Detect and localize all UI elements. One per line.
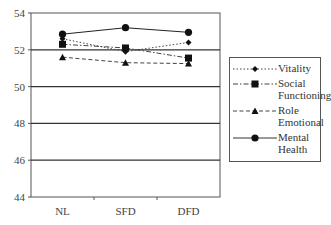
legend: Vitality Social Functioning Role Emotion…: [229, 57, 321, 162]
y-tick-label: 54: [14, 7, 26, 19]
legend-label-vitality: Vitality: [278, 62, 322, 74]
legend-label-role-emotional: Role Emotional: [278, 104, 322, 128]
plot-frame: [31, 13, 220, 197]
series-mental-health: [59, 24, 192, 38]
y-tick-label: 50: [14, 81, 26, 93]
square-marker-icon: [122, 44, 129, 51]
circle-marker-icon: [185, 29, 192, 36]
series-role-emotional: [59, 54, 192, 67]
legend-label-line-2: Emotional: [278, 116, 324, 128]
y-axis: 444648505254: [14, 7, 31, 203]
role-emotional-line-triangle-icon: [233, 106, 277, 116]
social-functioning-line-square-icon: [233, 79, 277, 89]
x-tick-label: DFD: [177, 205, 199, 217]
y-tick-label: 46: [14, 154, 26, 166]
legend-label-line-1: Mental: [278, 131, 309, 143]
circle-marker-icon: [122, 24, 129, 31]
legend-label-line-2: Functioning: [278, 89, 331, 101]
square-marker-icon: [59, 41, 66, 48]
legend-label-line-2: Health: [278, 143, 307, 155]
legend-label-line-1: Role: [278, 104, 299, 116]
series-group: [59, 24, 192, 66]
legend-label-mental-health: Mental Health: [278, 131, 322, 155]
legend-label-social-functioning: Social Functioning: [278, 77, 322, 101]
y-tick-label: 52: [14, 44, 25, 56]
x-axis: NLSFDDFD: [55, 197, 199, 217]
x-tick-label: NL: [55, 205, 70, 217]
x-tick-label: SFD: [115, 205, 135, 217]
mental-health-line-circle-icon: [233, 133, 277, 143]
circle-marker-icon: [59, 31, 66, 38]
y-tick-label: 44: [14, 191, 26, 203]
vitality-line-diamond-icon: [233, 64, 277, 74]
legend-label-line-1: Social: [278, 77, 306, 89]
diamond-marker-icon: [186, 39, 192, 45]
y-tick-label: 48: [14, 117, 26, 129]
